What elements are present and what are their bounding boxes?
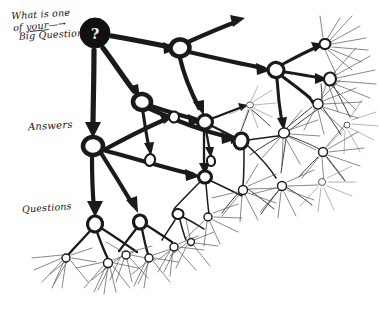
label-answers: Answers (28, 119, 73, 133)
node-answer-3 (82, 136, 103, 156)
node-question-6 (132, 214, 147, 230)
label-big-question: What is one of your—→ Big Questions (11, 6, 89, 43)
root-question-mark: ? (91, 26, 99, 42)
node-sub-16 (188, 239, 195, 246)
node-sub-10 (204, 213, 212, 221)
node-sub-12 (104, 259, 113, 268)
node-sub-4 (277, 127, 290, 139)
node-question-4 (198, 170, 212, 183)
node-answer-1 (169, 38, 190, 57)
node-question-1 (267, 61, 285, 79)
burst-m2 (252, 170, 318, 218)
node-sub-5 (246, 102, 254, 109)
burst-c4 (262, 110, 320, 166)
node-sub-3 (313, 99, 323, 109)
fractal-question-tree: ? (0, 0, 379, 311)
burst-l5 (158, 236, 204, 276)
node-question-7 (172, 209, 184, 220)
node-sub-14 (145, 254, 153, 262)
node-sub-15 (170, 243, 178, 251)
node-sub-11 (62, 254, 70, 262)
node-question-5 (86, 215, 103, 233)
diagram-canvas: ? (0, 0, 379, 311)
node-question-3 (232, 131, 250, 150)
node-question-9 (206, 155, 215, 166)
node-sub-7 (239, 186, 248, 195)
node-sub-2 (323, 72, 337, 87)
node-answer-2 (132, 93, 152, 111)
burst-m3 (300, 166, 356, 212)
node-sub-13 (122, 251, 130, 259)
node-sub-6 (319, 148, 328, 157)
node-sub-17 (344, 122, 350, 128)
node-sub-9 (319, 179, 326, 186)
node-sub-8 (278, 182, 287, 191)
node-sub-1 (319, 38, 332, 50)
node-question-2 (196, 114, 214, 131)
node-question-10 (168, 111, 180, 124)
